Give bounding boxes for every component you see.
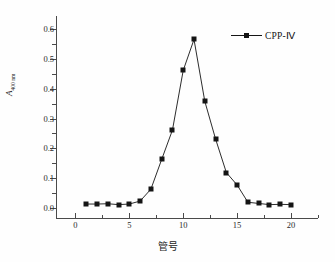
data-point-tube-3 <box>105 201 110 206</box>
data-point-tube-10 <box>181 68 186 73</box>
data-point-tube-17 <box>256 201 261 206</box>
plot-area: 0.00.10.20.30.40.50.6 05101520 A400 nm 管… <box>0 0 335 262</box>
data-point-tube-20 <box>289 202 294 207</box>
legend: CPP-Ⅳ <box>231 30 295 41</box>
legend-label-cpp-iv: CPP-Ⅳ <box>265 30 295 41</box>
figure-chart-cpp-iv: 0.00.10.20.30.40.50.6 05101520 A400 nm 管… <box>0 0 335 262</box>
data-point-tube-11 <box>192 37 197 42</box>
x-axis-title: 管号 <box>0 238 335 253</box>
legend-marker-square <box>244 33 249 38</box>
data-point-tube-14 <box>224 170 229 175</box>
data-point-tube-1 <box>84 202 89 207</box>
legend-line-sample <box>231 35 262 36</box>
data-point-tube-16 <box>245 200 250 205</box>
data-point-tube-9 <box>170 128 175 133</box>
data-point-tube-4 <box>116 202 121 207</box>
data-point-tube-5 <box>127 202 132 207</box>
data-point-tube-2 <box>94 202 99 207</box>
data-point-tube-19 <box>278 202 283 207</box>
data-point-tube-15 <box>235 183 240 188</box>
data-point-tube-13 <box>213 136 218 141</box>
data-point-tube-7 <box>148 187 153 192</box>
y-axis-title: A400 nm <box>4 74 16 96</box>
y-axis-title-subscript: 400 nm <box>10 74 16 91</box>
data-point-tube-18 <box>267 202 272 207</box>
data-point-tube-12 <box>202 99 207 104</box>
data-point-tube-6 <box>138 199 143 204</box>
y-axis-title-symbol: A <box>4 91 14 97</box>
data-point-tube-8 <box>159 157 164 162</box>
